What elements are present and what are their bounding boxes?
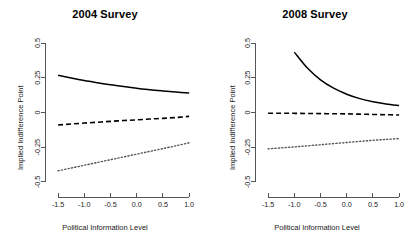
x-tick-label: -0.5	[314, 200, 326, 209]
series-upper-bound-estimate	[58, 75, 189, 93]
figure-root: 2004 Survey -0.5-0.2500.250.5-1.5-1.0-0.…	[0, 0, 420, 240]
x-tick-label: -1.0	[288, 200, 300, 209]
x-tick-label: 0.5	[368, 200, 378, 209]
y-tick-label: 0.25	[33, 71, 42, 85]
x-axis-label-2008: Political Information Level	[212, 223, 420, 232]
y-tick-label: 0	[243, 111, 252, 115]
x-tick-label: 1.0	[184, 200, 194, 209]
plot-area-2008: -0.5-0.2500.250.5-1.5-1.0-0.50.00.51.0	[210, 0, 420, 240]
y-tick-label: -0.5	[243, 176, 252, 188]
series-lower-bound-estimate	[58, 143, 189, 171]
panel-2008-survey: 2008 Survey -0.5-0.2500.250.5-1.5-1.0-0.…	[210, 0, 420, 240]
series-lower-bound-estimate	[268, 139, 399, 149]
x-tick-label: 0.5	[158, 200, 168, 209]
y-tick-label: 0.5	[33, 38, 42, 48]
series-point-estimate	[268, 113, 399, 115]
x-tick-label: -1.5	[262, 200, 274, 209]
x-axis-label-2004: Political Information Level	[0, 223, 210, 232]
x-tick-label: 0.0	[132, 200, 142, 209]
y-tick-label: 0.25	[243, 71, 252, 85]
y-tick-label: -0.25	[243, 139, 252, 155]
y-tick-label: -0.5	[33, 176, 42, 188]
series-point-estimate	[58, 116, 189, 125]
x-tick-label: -0.5	[104, 200, 116, 209]
y-axis-label-2004: Implied Indifference Point	[16, 86, 25, 171]
x-tick-label: -1.0	[78, 200, 90, 209]
x-tick-label: 0.0	[342, 200, 352, 209]
x-tick-label: 1.0	[394, 200, 404, 209]
series-upper-bound-estimate	[294, 52, 399, 105]
panel-2004-survey: 2004 Survey -0.5-0.2500.250.5-1.5-1.0-0.…	[0, 0, 210, 240]
y-tick-label: -0.25	[33, 139, 42, 155]
y-axis-label-2008: Implied Indifference Point	[228, 86, 237, 171]
y-tick-label: 0.5	[243, 38, 252, 48]
y-tick-label: 0	[33, 111, 42, 115]
plot-area-2004: -0.5-0.2500.250.5-1.5-1.0-0.50.00.51.0	[0, 0, 210, 240]
x-tick-label: -1.5	[52, 200, 64, 209]
